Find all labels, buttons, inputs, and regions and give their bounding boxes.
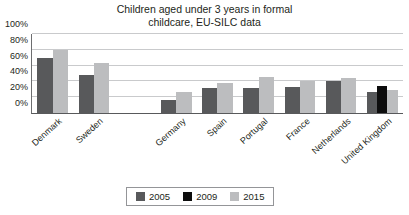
- bar: [300, 81, 315, 113]
- bar: [377, 86, 387, 113]
- y-axis-tick-label: 60%: [10, 51, 28, 61]
- legend-swatch-icon: [183, 192, 192, 201]
- bar: [259, 77, 274, 113]
- legend-item[interactable]: 2009: [183, 191, 217, 202]
- x-axis-tick-label: Germany: [153, 116, 187, 148]
- bar-group: [321, 34, 362, 113]
- legend-label: 2005: [149, 191, 170, 202]
- bar: [217, 83, 232, 113]
- y-axis-tick-label: 0%: [15, 98, 28, 108]
- legend-swatch-icon: [136, 192, 145, 201]
- x-axis-tick-label: Netherlands: [310, 116, 353, 156]
- chart-container: Children aged under 3 years in formal ch…: [0, 0, 409, 215]
- legend-label: 2009: [196, 191, 217, 202]
- bar: [79, 75, 94, 113]
- chart-title: Children aged under 3 years in formal ch…: [0, 3, 409, 29]
- y-axis-tick-label: 20%: [10, 82, 28, 92]
- bar: [53, 50, 68, 113]
- bar-group: [114, 34, 155, 113]
- legend-swatch-icon: [230, 192, 239, 201]
- bar-group: [238, 34, 279, 113]
- bar: [94, 63, 109, 113]
- bar-group: [156, 34, 197, 113]
- bar: [367, 92, 377, 113]
- bars-layer: [32, 34, 403, 113]
- chart-legend: 200520092015: [126, 187, 274, 206]
- x-axis-tick-label: France: [284, 116, 312, 142]
- bar-group: [197, 34, 238, 113]
- x-axis-labels: DenmarkSwedenGermanySpainPortugalFranceN…: [31, 114, 403, 174]
- bar-group: [32, 34, 73, 113]
- bar-group: [279, 34, 320, 113]
- y-axis-tick-label: 100%: [5, 19, 28, 29]
- x-axis-tick-label: Denmark: [29, 116, 63, 148]
- x-axis-tick-label: Spain: [205, 116, 229, 139]
- plot-area: 0%20%40%60%80%100%: [31, 34, 403, 114]
- bar: [387, 90, 397, 113]
- legend-item[interactable]: 2015: [230, 191, 264, 202]
- x-axis-tick-label: Sweden: [74, 116, 105, 145]
- bar: [176, 92, 191, 113]
- bar: [202, 88, 217, 113]
- bar-group: [362, 34, 403, 113]
- bar: [161, 100, 176, 113]
- bar: [341, 78, 356, 113]
- legend-label: 2015: [243, 191, 264, 202]
- y-axis-tick-label: 80%: [10, 35, 28, 45]
- bar: [326, 81, 341, 113]
- y-axis-tick-label: 40%: [10, 66, 28, 76]
- bar: [37, 58, 52, 113]
- bar-group: [73, 34, 114, 113]
- x-axis-tick-label: Portugal: [238, 116, 270, 146]
- bar: [285, 87, 300, 113]
- legend-item[interactable]: 2005: [136, 191, 170, 202]
- bar: [243, 88, 258, 113]
